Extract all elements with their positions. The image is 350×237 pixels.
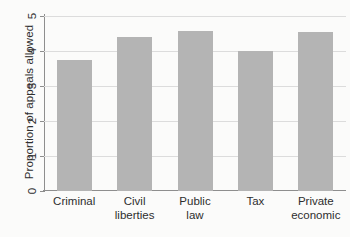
bar <box>57 60 92 191</box>
y-tick-mark <box>40 16 44 17</box>
bar <box>117 37 152 191</box>
x-axis-label: Tax <box>225 195 285 209</box>
y-tick-mark <box>40 191 44 192</box>
x-axis-label-line: Private <box>286 195 346 209</box>
y-tick-mark <box>40 121 44 122</box>
y-tick-label: 2 <box>25 114 39 128</box>
y-tick-label: 0 <box>25 184 39 198</box>
x-axis-label: Publiclaw <box>165 195 225 222</box>
gridline <box>44 16 346 17</box>
y-tick-label: 5 <box>25 9 39 23</box>
x-axis-label-line: Criminal <box>44 195 104 209</box>
y-tick-label: 1 <box>25 149 39 163</box>
bar-chart: Proportion of appeals allowed 012345 Cri… <box>0 0 350 237</box>
y-tick-mark <box>40 86 44 87</box>
bar <box>238 51 273 191</box>
x-axis-label: Privateeconomic <box>286 195 346 222</box>
x-axis-label-line: liberties <box>104 209 164 223</box>
y-tick-label: 3 <box>25 79 39 93</box>
x-axis-label: Criminal <box>44 195 104 209</box>
x-axis-label-line: Public <box>165 195 225 209</box>
x-axis-label-line: Tax <box>225 195 285 209</box>
y-tick-label: 4 <box>25 44 39 58</box>
x-axis-label-line: law <box>165 209 225 223</box>
y-axis-title: Proportion of appeals allowed <box>23 12 35 192</box>
gridline <box>44 191 346 192</box>
y-tick-mark <box>40 156 44 157</box>
x-axis-label: Civilliberties <box>104 195 164 222</box>
x-axis-label-line: Civil <box>104 195 164 209</box>
bar <box>178 31 213 191</box>
plot-area <box>44 16 346 191</box>
y-tick-mark <box>40 51 44 52</box>
x-axis-label-line: economic <box>286 209 346 223</box>
bar <box>298 32 333 191</box>
